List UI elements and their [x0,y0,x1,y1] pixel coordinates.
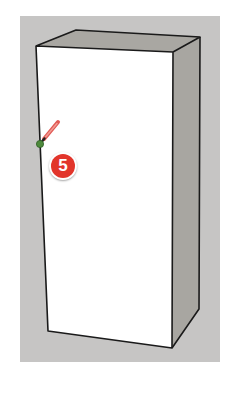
step-number-badge: 5 [49,152,77,180]
step-number-label: 5 [51,154,75,178]
inference-point-icon [36,140,43,147]
box-front-face [36,46,173,348]
3d-box[interactable] [36,30,200,348]
modeling-viewport[interactable] [0,0,238,396]
box-side-face [172,37,200,348]
